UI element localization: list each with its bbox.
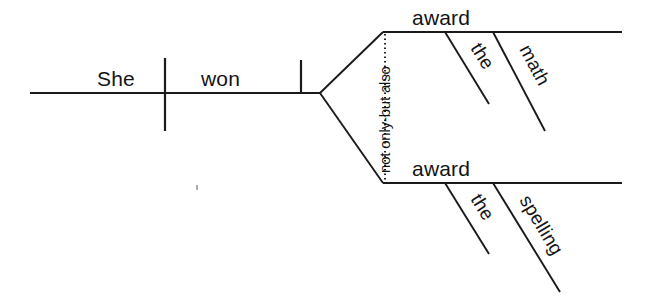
upper-modifier-the: the [467, 39, 499, 73]
word-subject: She [97, 67, 135, 90]
sentence-diagram-canvas: She won not only-but also award the math… [0, 0, 657, 307]
upper-branch-head-word: award [412, 6, 470, 29]
upper-modifier-math: math [515, 41, 554, 89]
fork-lower-arm [320, 93, 383, 183]
word-verb: won [200, 67, 240, 90]
sentence-diagram-drawing: She won not only-but also award the math… [0, 0, 657, 307]
scan-speck [196, 185, 198, 190]
lower-modifier-spelling: spelling [516, 191, 568, 258]
lower-modifier-the: the [467, 190, 499, 224]
conjunction-label: not only-but also [376, 66, 393, 173]
lower-branch-head-word: award [412, 157, 470, 180]
fork-upper-arm [320, 32, 383, 93]
